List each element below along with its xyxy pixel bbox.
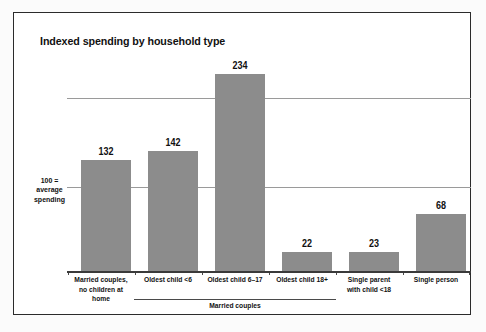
category-label-line-1: Single parent <box>338 275 401 285</box>
bar-value-single-parent: 23 <box>352 238 397 249</box>
bar-value-oldest-child-18-plus: 22 <box>285 238 330 249</box>
bar-value-oldest-child-under-6: 142 <box>151 137 196 148</box>
bar-married-no-children[interactable] <box>81 160 131 271</box>
group-bracket-label: Married couples <box>142 301 328 310</box>
category-label-line-1: Married couples, <box>70 275 133 285</box>
category-label-line-1: Oldest child 6–17 <box>204 275 267 285</box>
category-label-single-parent: Single parent with child <18 <box>338 275 401 294</box>
category-label-oldest-child-6-17: Oldest child 6–17 <box>204 275 267 285</box>
bar-single-parent[interactable] <box>349 252 399 271</box>
chart-title: Indexed spending by household type <box>40 35 225 47</box>
plot-area: 132 142 234 22 23 68 <box>67 53 471 272</box>
bar-oldest-child-18-plus[interactable] <box>282 252 332 271</box>
category-label-line-1: Oldest child <6 <box>137 275 200 285</box>
axis-annotation-line-3: spending <box>32 195 66 204</box>
bar-value-married-no-children: 132 <box>84 146 129 157</box>
category-label-line-1: Oldest child 18+ <box>271 275 334 285</box>
axis-annotation-line-1: 100 = <box>32 176 66 185</box>
category-label-oldest-child-under-6: Oldest child <6 <box>137 275 200 285</box>
bar-value-single-person: 68 <box>419 200 464 211</box>
axis-annotation: 100 = average spending <box>32 176 66 204</box>
group-bracket-line <box>134 299 336 300</box>
chart-frame: Indexed spending by household type 132 1… <box>13 12 471 315</box>
axis-annotation-line-2: average <box>32 185 66 194</box>
category-label-oldest-child-18-plus: Oldest child 18+ <box>271 275 334 285</box>
bar-value-oldest-child-6-17: 234 <box>218 60 263 71</box>
category-label-line-2: with child <18 <box>338 285 401 295</box>
bar-oldest-child-6-17[interactable] <box>215 74 265 271</box>
bar-single-person[interactable] <box>416 214 466 271</box>
group-bracket: Married couples <box>67 299 471 321</box>
bar-oldest-child-under-6[interactable] <box>148 151 198 271</box>
category-label-line-1: Single person <box>405 275 468 285</box>
axis-baseline <box>67 271 471 273</box>
chart-figure: Indexed spending by household type 132 1… <box>0 0 486 332</box>
category-label-single-person: Single person <box>405 275 468 285</box>
gridline-200 <box>67 98 471 99</box>
